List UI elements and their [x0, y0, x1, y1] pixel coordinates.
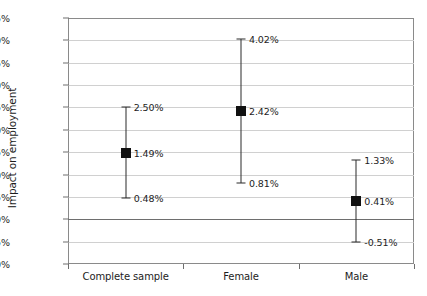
x-tick-mark [68, 264, 69, 269]
y-tick-label: 0.5% [0, 191, 10, 202]
x-tick-label: Female [223, 271, 259, 282]
y-tick-mark [63, 241, 69, 242]
y-tick-mark [63, 129, 69, 130]
y-tick-mark [63, 40, 69, 41]
y-tick-mark [63, 152, 69, 153]
y-tick-label: 0.0% [0, 214, 10, 225]
gridline [68, 107, 414, 108]
gridline [68, 40, 414, 41]
y-tick-mark [63, 62, 69, 63]
gridline [68, 85, 414, 86]
zero-gridline [68, 219, 414, 220]
gridline [68, 197, 414, 198]
y-tick-label: -1.0% [0, 259, 10, 270]
error-bar-chart: Impact on employment 4.5%4.0%3.5%3.0%2.5… [0, 0, 427, 296]
y-tick-mark [63, 18, 69, 19]
x-tick-label: Male [345, 271, 368, 282]
gridline [68, 242, 414, 243]
y-tick-label: 2.0% [0, 124, 10, 135]
y-tick-mark [63, 196, 69, 197]
plot-area [68, 18, 414, 264]
gridline [68, 130, 414, 131]
y-tick-label: 1.5% [0, 147, 10, 158]
y-tick-label: 3.0% [0, 80, 10, 91]
y-tick-label: 4.0% [0, 35, 10, 46]
x-tick-mark [414, 264, 415, 269]
y-tick-label: 2.5% [0, 102, 10, 113]
x-tick-mark [299, 264, 300, 269]
y-tick-label: 4.5% [0, 13, 10, 24]
gridline [68, 175, 414, 176]
y-tick-mark [63, 174, 69, 175]
y-tick-label: 1.0% [0, 169, 10, 180]
gridline [68, 152, 414, 153]
y-tick-mark [63, 85, 69, 86]
y-tick-mark [63, 219, 69, 220]
x-tick-label: Complete sample [83, 271, 169, 282]
x-tick-mark [183, 264, 184, 269]
y-tick-label: 3.5% [0, 57, 10, 68]
y-tick-mark [63, 107, 69, 108]
y-tick-label: -0.5% [0, 236, 10, 247]
gridline [68, 63, 414, 64]
